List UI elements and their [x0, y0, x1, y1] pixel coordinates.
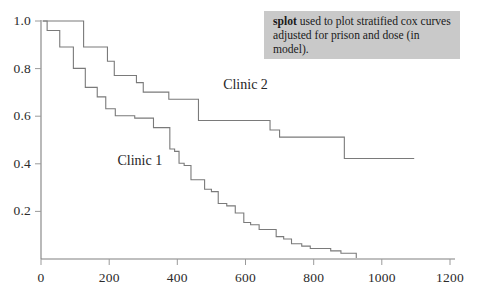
series-label-clinic-2: Clinic 2	[223, 77, 268, 93]
x-axis-ticks	[41, 259, 450, 265]
annotation-callout: splot used to plot stratified cox curves…	[264, 11, 460, 59]
y-tick-label-0.6: 0.6	[0, 108, 31, 124]
y-tick-label-0.8: 0.8	[0, 61, 31, 77]
y-axis-ticks	[35, 21, 41, 211]
x-tick-label-600: 600	[235, 270, 256, 286]
x-tick-label-800: 800	[303, 270, 324, 286]
x-tick-label-1000: 1000	[368, 270, 396, 286]
x-tick-label-0: 0	[38, 270, 45, 286]
survival-curve-figure: 1.0 0.8 0.6 0.4 0.2 0 200 400 600 800 10…	[0, 0, 478, 299]
series-label-clinic-1: Clinic 1	[117, 153, 162, 169]
annotation-body: used to plot stratified cox curves adjus…	[273, 15, 451, 56]
y-tick-label-0.4: 0.4	[0, 156, 31, 172]
annotation-text: splot used to plot stratified cox curves…	[273, 15, 452, 58]
y-tick-label-1.0: 1.0	[0, 13, 31, 29]
x-tick-label-1200: 1200	[436, 270, 464, 286]
x-tick-label-200: 200	[99, 270, 120, 286]
x-tick-label-400: 400	[167, 270, 188, 286]
y-tick-label-0.2: 0.2	[0, 203, 31, 219]
annotation-command: splot	[273, 15, 297, 28]
